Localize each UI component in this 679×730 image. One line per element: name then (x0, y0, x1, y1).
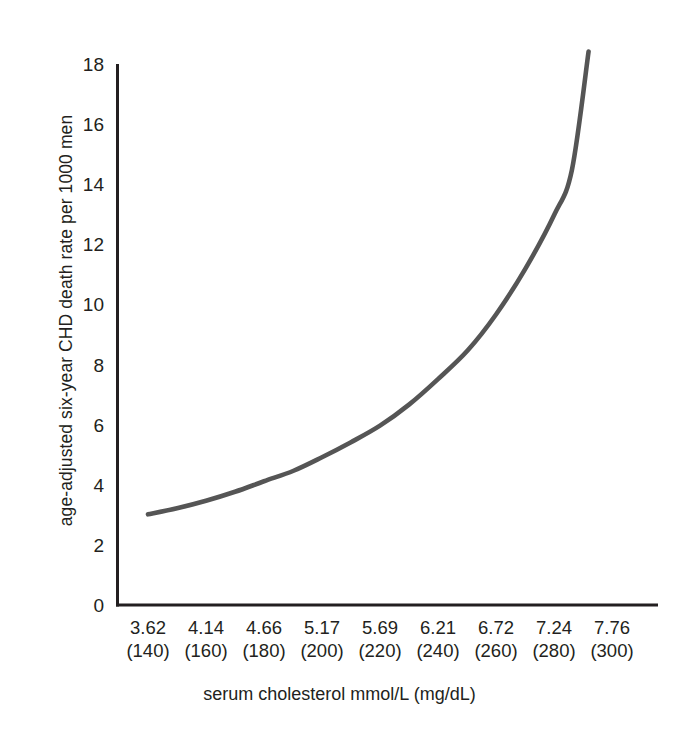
x-tick-mmol: 4.66 (246, 617, 282, 638)
x-tick-mgdl: (200) (290, 640, 354, 663)
x-tick-label: 7.76(300) (580, 617, 644, 662)
x-tick-label: 4.66(180) (232, 617, 296, 662)
x-tick-mgdl: (300) (580, 640, 644, 663)
x-tick-mmol: 7.76 (594, 617, 630, 638)
x-tick-mmol: 6.72 (478, 617, 514, 638)
x-tick-mgdl: (160) (174, 640, 238, 663)
x-tick-mgdl: (140) (116, 640, 180, 663)
x-tick-label: 6.72(260) (464, 617, 528, 662)
y-tick-label: 4 (60, 476, 104, 495)
x-tick-mmol: 6.21 (420, 617, 456, 638)
x-tick-mmol: 4.14 (188, 617, 224, 638)
x-axis-title: serum cholesterol mmol/L (mg/dL) (0, 684, 679, 705)
x-tick-label: 6.21(240) (406, 617, 470, 662)
x-tick-mgdl: (260) (464, 640, 528, 663)
x-tick-label: 4.14(160) (174, 617, 238, 662)
chd-rate-curve (148, 51, 589, 514)
x-tick-mgdl: (220) (348, 640, 412, 663)
y-tick-label: 10 (60, 295, 104, 314)
x-tick-mgdl: (180) (232, 640, 296, 663)
x-tick-mmol: 5.69 (362, 617, 398, 638)
y-tick-label: 8 (60, 356, 104, 375)
x-tick-label: 3.62(140) (116, 617, 180, 662)
x-tick-label: 5.69(220) (348, 617, 412, 662)
y-tick-label: 2 (60, 536, 104, 555)
x-tick-label: 5.17(200) (290, 617, 354, 662)
y-tick-label: 0 (60, 596, 104, 615)
x-tick-mgdl: (280) (522, 640, 586, 663)
y-tick-label: 18 (60, 55, 104, 74)
x-tick-mmol: 3.62 (130, 617, 166, 638)
y-tick-label: 12 (60, 235, 104, 254)
y-tick-label: 16 (60, 115, 104, 134)
x-tick-mmol: 7.24 (536, 617, 572, 638)
x-tick-mgdl: (240) (406, 640, 470, 663)
x-tick-mmol: 5.17 (304, 617, 340, 638)
y-tick-label: 14 (60, 175, 104, 194)
y-tick-label: 6 (60, 416, 104, 435)
chd-cholesterol-chart: age-adjusted six-year CHD death rate per… (0, 0, 679, 730)
x-tick-label: 7.24(280) (522, 617, 586, 662)
